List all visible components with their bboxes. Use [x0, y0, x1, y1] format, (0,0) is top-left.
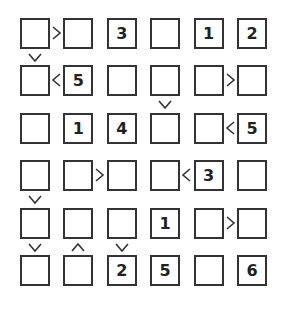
empty-cell[interactable]	[107, 160, 137, 191]
less-than-icon	[182, 168, 192, 182]
empty-cell[interactable]	[194, 255, 224, 286]
less-than-up-icon	[71, 243, 85, 253]
greater-than-down-icon	[28, 53, 42, 63]
empty-cell[interactable]	[20, 208, 50, 239]
given-cell: 5	[150, 255, 180, 286]
empty-cell[interactable]	[63, 255, 93, 286]
empty-cell[interactable]	[150, 160, 180, 191]
empty-cell[interactable]	[194, 113, 224, 144]
empty-cell[interactable]	[237, 208, 267, 239]
given-cell: 3	[194, 160, 224, 191]
given-cell: 1	[194, 18, 224, 49]
less-than-icon	[226, 121, 236, 135]
given-cell: 6	[237, 255, 267, 286]
empty-cell[interactable]	[194, 65, 224, 96]
given-cell: 2	[107, 255, 137, 286]
given-cell: 2	[237, 18, 267, 49]
empty-cell[interactable]	[150, 113, 180, 144]
less-than-icon	[52, 73, 62, 87]
greater-than-down-icon	[115, 243, 129, 253]
empty-cell[interactable]	[237, 160, 267, 191]
empty-cell[interactable]	[107, 65, 137, 96]
empty-cell[interactable]	[237, 65, 267, 96]
given-cell: 5	[237, 113, 267, 144]
futoshiki-board: 312514531256	[0, 0, 286, 311]
given-cell: 5	[63, 65, 93, 96]
empty-cell[interactable]	[194, 208, 224, 239]
given-cell: 1	[63, 113, 93, 144]
empty-cell[interactable]	[20, 113, 50, 144]
given-cell: 3	[107, 18, 137, 49]
given-cell: 4	[107, 113, 137, 144]
greater-than-icon	[226, 73, 236, 87]
empty-cell[interactable]	[20, 65, 50, 96]
greater-than-icon	[226, 216, 236, 230]
empty-cell[interactable]	[150, 65, 180, 96]
given-cell: 1	[150, 208, 180, 239]
empty-cell[interactable]	[20, 160, 50, 191]
greater-than-icon	[95, 168, 105, 182]
empty-cell[interactable]	[63, 208, 93, 239]
empty-cell[interactable]	[20, 255, 50, 286]
empty-cell[interactable]	[63, 160, 93, 191]
empty-cell[interactable]	[20, 18, 50, 49]
greater-than-down-icon	[158, 100, 172, 110]
greater-than-icon	[52, 26, 62, 40]
greater-than-down-icon	[28, 243, 42, 253]
empty-cell[interactable]	[107, 208, 137, 239]
empty-cell[interactable]	[63, 18, 93, 49]
greater-than-down-icon	[28, 195, 42, 205]
empty-cell[interactable]	[150, 18, 180, 49]
